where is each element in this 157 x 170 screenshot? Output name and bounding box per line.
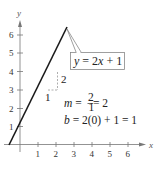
rise-label: 2 bbox=[61, 73, 67, 85]
y-ticks: 1 2 3 4 5 6 bbox=[9, 30, 23, 132]
x-tick-2: 2 bbox=[54, 149, 59, 159]
line-y-2x-plus-1 bbox=[9, 27, 67, 145]
svg-text:m =: m = bbox=[64, 97, 82, 109]
svg-text:= 2: = 2 bbox=[93, 97, 108, 109]
slope-equation: m = 2 1 = 2 bbox=[64, 91, 108, 114]
y-tick-2: 2 bbox=[9, 104, 14, 114]
x-tick-3: 3 bbox=[72, 149, 77, 159]
callout-pointer bbox=[67, 29, 81, 52]
y-tick-5: 5 bbox=[9, 48, 14, 58]
axes bbox=[4, 20, 146, 152]
slope-triangle bbox=[48, 72, 58, 90]
x-axis-label: x bbox=[148, 140, 153, 150]
graph: y x 1 2 3 4 5 6 1 2 3 4 5 6 2 1 bbox=[0, 0, 157, 170]
run-label: 1 bbox=[45, 91, 51, 103]
callout-equation: y = 2x + 1 bbox=[73, 54, 122, 68]
y-tick-4: 4 bbox=[9, 67, 14, 77]
intercept-equation: b = 2(0) + 1 = 1 bbox=[64, 114, 137, 127]
y-axis-label: y bbox=[16, 8, 21, 18]
x-tick-6: 6 bbox=[126, 149, 131, 159]
x-tick-1: 1 bbox=[36, 149, 41, 159]
x-tick-4: 4 bbox=[90, 149, 95, 159]
x-axis-arrow-icon bbox=[139, 143, 146, 147]
y-axis-arrow-icon bbox=[18, 20, 22, 27]
y-tick-6: 6 bbox=[9, 30, 14, 40]
x-tick-5: 5 bbox=[108, 149, 113, 159]
y-tick-3: 3 bbox=[9, 85, 14, 95]
y-tick-1: 1 bbox=[9, 122, 14, 132]
